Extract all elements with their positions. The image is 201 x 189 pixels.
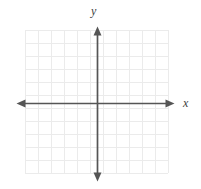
coordinate-plane-canvas (0, 0, 201, 189)
y-axis-arrowhead-bottom (94, 173, 102, 182)
x-axis-label: x (183, 97, 188, 109)
x-axis-arrowhead-right (166, 100, 175, 108)
coordinate-plane-figure: y x (0, 0, 201, 189)
x-axis-arrowhead-left (17, 100, 26, 108)
x-axis (17, 100, 175, 108)
y-axis-label: y (91, 5, 96, 17)
